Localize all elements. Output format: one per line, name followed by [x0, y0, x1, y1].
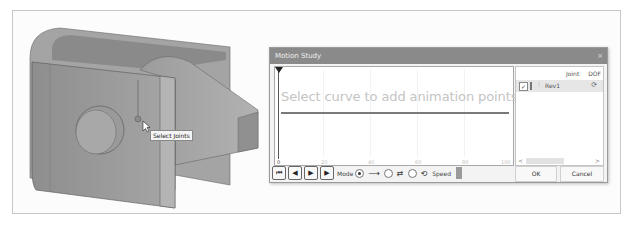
step-back-button[interactable]: ◀	[288, 166, 302, 180]
joint-color-bar	[530, 82, 532, 90]
close-icon[interactable]: ×	[597, 48, 603, 64]
mode-reverse-radio[interactable]	[384, 169, 393, 178]
speed-slider[interactable]	[456, 167, 462, 179]
mode-label: Mode	[337, 170, 353, 177]
scrollbar-thumb[interactable]	[526, 158, 564, 164]
tick-label: 0	[277, 159, 280, 165]
timeline-axis: 0 20 40 60 80 100	[277, 157, 511, 165]
go-to-start-button[interactable]: ⏮	[272, 166, 286, 180]
cancel-button[interactable]: Cancel	[560, 166, 604, 182]
tick-label: 100	[501, 159, 511, 165]
playback-controls: ⏮ ◀ ▶ ▶ Mode ⟶ ⇄ ⟲ Speed	[272, 166, 462, 180]
speed-label: Speed	[432, 170, 451, 177]
ok-button[interactable]: OK	[515, 166, 557, 182]
tick-label: 40	[368, 159, 374, 165]
time-cursor-handle-icon[interactable]	[275, 67, 283, 73]
joints-panel: Joint DOF ✓ ⫶ Rev1 ⟳ < >	[515, 66, 604, 166]
play-button[interactable]: ▶	[320, 166, 334, 180]
scroll-left-icon[interactable]: <	[518, 157, 523, 164]
joint-column-header: Joint	[566, 70, 579, 77]
mode-once-radio[interactable]	[355, 169, 364, 178]
dialog-title: Motion Study	[275, 52, 321, 60]
motion-study-dialog: Motion Study × Select curve to add anima…	[269, 47, 608, 183]
rotate-icon[interactable]: ⟳	[591, 81, 597, 89]
tick-label: 60	[415, 159, 421, 165]
timeline-hint: Select curve to add animation points	[281, 89, 517, 104]
mode-loop-radio[interactable]	[408, 169, 417, 178]
dialog-titlebar[interactable]: Motion Study ×	[270, 48, 607, 64]
animation-curve[interactable]	[281, 112, 509, 114]
swap-arrows-icon: ⇄	[397, 169, 404, 178]
select-joints-tooltip: Select Joints	[150, 130, 193, 141]
horizontal-scrollbar[interactable]: < >	[516, 157, 603, 165]
time-cursor-line[interactable]	[278, 69, 279, 159]
joint-checkbox[interactable]: ✓	[519, 82, 528, 91]
scroll-right-icon[interactable]: >	[595, 157, 600, 164]
tick-label: 80	[462, 159, 468, 165]
loop-icon: ⟲	[421, 169, 428, 178]
arrow-right-icon: ⟶	[368, 169, 379, 178]
joint-name: Rev1	[545, 82, 560, 89]
3d-model-viewport[interactable]	[0, 0, 270, 228]
timeline-graph[interactable]: Select curve to add animation points 0 2…	[274, 66, 514, 166]
step-forward-button[interactable]: ▶	[304, 166, 318, 180]
dof-column-header: DOF	[588, 70, 601, 77]
tick-label: 20	[321, 159, 327, 165]
joint-row[interactable]: ✓ ⫶ Rev1 ⟳	[516, 80, 603, 92]
revolute-joint-icon: ⫶	[538, 81, 540, 89]
